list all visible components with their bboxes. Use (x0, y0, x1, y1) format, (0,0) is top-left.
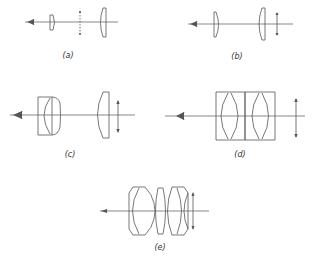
eye-icon (190, 21, 197, 27)
eye-icon (176, 112, 184, 120)
panel-e (100, 187, 209, 235)
eye-lens (50, 15, 55, 30)
eye-lens (214, 12, 219, 37)
panel-b (188, 8, 293, 40)
eye-icon (13, 111, 22, 119)
panel-a (25, 8, 118, 37)
panel-label-d: (d) (234, 150, 245, 159)
panel-d (165, 92, 305, 140)
achromatic-doublet (38, 97, 61, 135)
eyepiece-diagram (0, 0, 317, 263)
panel-label-e: (e) (154, 243, 165, 252)
panel-c (10, 92, 135, 138)
field-lens (101, 8, 107, 37)
panel-label-b: (b) (231, 52, 242, 61)
eye-icon (27, 19, 34, 25)
panel-label-c: (c) (65, 150, 76, 159)
panel-label-a: (a) (62, 51, 73, 60)
eye-icon (101, 209, 107, 213)
